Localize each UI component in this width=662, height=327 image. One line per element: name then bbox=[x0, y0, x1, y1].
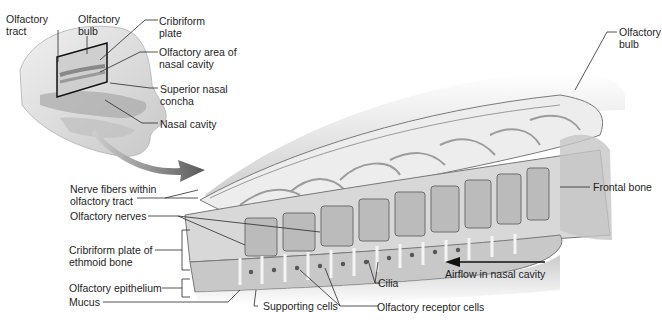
label-cilia: Cilia bbox=[378, 277, 398, 289]
label-airflow: Airflow in nasal cavity bbox=[445, 268, 545, 280]
label-superior-nasal-concha: Superior nasal concha bbox=[160, 83, 228, 107]
olfactory-diagram-artwork bbox=[0, 0, 662, 327]
label-olfactory-epithelium: Olfactory epithelium bbox=[69, 282, 162, 294]
label-cribriform-plate: Cribriform plate bbox=[159, 15, 205, 39]
label-nerve-fibers: Nerve fibers within olfactory tract bbox=[70, 183, 156, 207]
tissue-section bbox=[185, 72, 625, 305]
label-olfactory-tract: Olfactory tract bbox=[6, 13, 48, 37]
label-mucus: Mucus bbox=[69, 296, 100, 308]
label-olfactory-bulb-inset: Olfactory bulb bbox=[78, 13, 120, 37]
label-supporting-cells: Supporting cells bbox=[263, 300, 338, 312]
inset-head-illustration bbox=[20, 26, 166, 156]
label-olfactory-bulb-main: Olfactory bulb bbox=[619, 26, 661, 50]
label-olfactory-nerves: Olfactory nerves bbox=[70, 210, 146, 222]
label-olfactory-receptor-cells: Olfactory receptor cells bbox=[377, 301, 484, 313]
label-frontal-bone: Frontal bone bbox=[593, 181, 652, 193]
label-nasal-cavity: Nasal cavity bbox=[160, 118, 217, 130]
label-cribriform-plate-ethmoid: Cribriform plate of ethmoid bone bbox=[69, 244, 152, 268]
label-olfactory-area: Olfactory area of nasal cavity bbox=[159, 46, 237, 70]
